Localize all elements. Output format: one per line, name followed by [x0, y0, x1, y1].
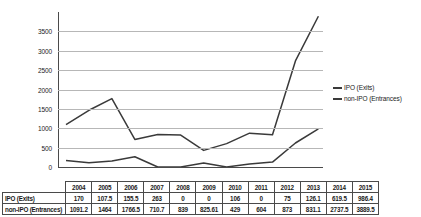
table-row: IPO (Exits)170107.5155.526300106075126.1… — [3, 193, 379, 204]
table-column-header: 2013 — [300, 182, 326, 193]
gridline — [58, 31, 323, 32]
legend-swatch-icon — [333, 87, 342, 89]
table-cell: 75 — [274, 193, 300, 204]
y-tick-label: 3000 — [38, 47, 52, 54]
y-tick-label: 1000 — [38, 125, 52, 132]
chart-figure: 0500100015002000250030003500 IPO (Exits)… — [0, 0, 421, 217]
table-cell: 170 — [66, 193, 92, 204]
y-tick-label: 0 — [48, 164, 52, 171]
legend-label: non-IPO (Entrances) — [344, 95, 402, 103]
y-axis-tick-labels: 0500100015002000250030003500 — [0, 0, 56, 180]
table-column-header: 2014 — [326, 182, 352, 193]
table-column-header: 2009 — [196, 182, 222, 193]
table-cell: 710.7 — [144, 204, 170, 215]
table-column-header: 2005 — [92, 182, 118, 193]
table-column-header: 2010 — [222, 182, 248, 193]
legend: IPO (Exits) non-IPO (Entrances) — [333, 84, 421, 106]
table-cell: 831.1 — [300, 204, 326, 215]
table-cell: 155.5 — [118, 193, 144, 204]
table-cell: 986.4 — [352, 193, 378, 204]
table-column-header: 2015 — [352, 182, 378, 193]
legend-item-non-ipo-entrances: non-IPO (Entrances) — [333, 95, 421, 103]
table-cell: 604 — [248, 204, 274, 215]
table-cell: 619.5 — [326, 193, 352, 204]
table-cell: 1464 — [92, 204, 118, 215]
axes — [58, 12, 323, 167]
axis-baseline — [58, 167, 323, 168]
data-table: 2004200520062007200820092010201120122013… — [2, 181, 379, 215]
gridline — [58, 51, 323, 52]
legend-item-ipo-exits: IPO (Exits) — [333, 84, 421, 92]
table-cell: 839 — [170, 204, 196, 215]
y-tick-label: 500 — [41, 144, 52, 151]
table-cell: 263 — [144, 193, 170, 204]
gridline — [58, 70, 323, 71]
series-line — [66, 16, 318, 150]
table-row-header: non-IPO (Entrances) — [3, 204, 66, 215]
table-cell: 1091.2 — [66, 204, 92, 215]
table-cell: 126.1 — [300, 193, 326, 204]
legend-label: IPO (Exits) — [344, 84, 374, 92]
gridline — [58, 90, 323, 91]
y-tick-label: 1500 — [38, 105, 52, 112]
gridline — [58, 148, 323, 149]
table-cell: 0 — [196, 193, 222, 204]
table-cell: 0 — [248, 193, 274, 204]
table-column-header: 2004 — [66, 182, 92, 193]
table-row: non-IPO (Entrances)1091.214641766.5710.7… — [3, 204, 379, 215]
table-corner-cell — [3, 182, 66, 193]
table-column-header: 2011 — [248, 182, 274, 193]
table-cell: 1766.5 — [118, 204, 144, 215]
table-header-row: 2004200520062007200820092010201120122013… — [3, 182, 379, 193]
gridline — [58, 128, 323, 129]
y-tick-label: 3500 — [38, 28, 52, 35]
table-cell: 107.5 — [92, 193, 118, 204]
data-table-element: 2004200520062007200820092010201120122013… — [2, 181, 379, 215]
table-cell: 825.61 — [196, 204, 222, 215]
table-cell: 3889.5 — [352, 204, 378, 215]
table-cell: 429 — [222, 204, 248, 215]
table-column-header: 2012 — [274, 182, 300, 193]
y-tick-label: 2000 — [38, 86, 52, 93]
table-row-header: IPO (Exits) — [3, 193, 66, 204]
gridline — [58, 109, 323, 110]
table-cell: 873 — [274, 204, 300, 215]
table-cell: 106 — [222, 193, 248, 204]
legend-swatch-icon — [333, 98, 342, 100]
table-column-header: 2008 — [170, 182, 196, 193]
table-cell: 2737.5 — [326, 204, 352, 215]
table-cell: 0 — [170, 193, 196, 204]
y-tick-label: 2500 — [38, 67, 52, 74]
table-column-header: 2007 — [144, 182, 170, 193]
table-column-header: 2006 — [118, 182, 144, 193]
